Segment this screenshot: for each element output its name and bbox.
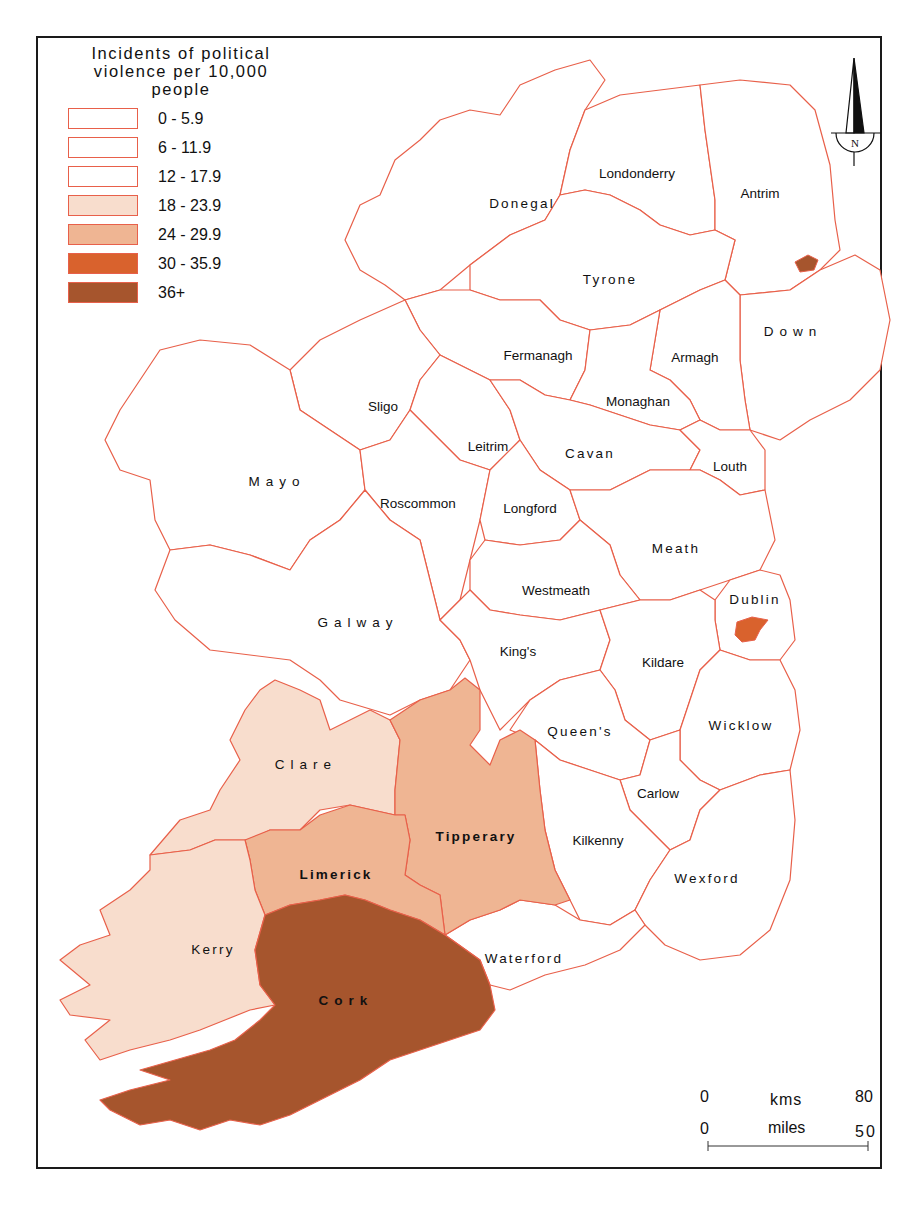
- label-longford: Longford: [503, 501, 556, 516]
- legend-label: 0 - 5.9: [158, 110, 203, 128]
- label-armagh: Armagh: [671, 350, 718, 365]
- label-dublin: Dublin: [729, 592, 780, 607]
- label-louth: Louth: [713, 459, 747, 474]
- county-kerry[interactable]: [60, 840, 275, 1060]
- legend-title: Incidents of political violence per 10,0…: [56, 44, 306, 98]
- label-clare: Clare: [275, 757, 337, 772]
- scale-kms-label: kms: [770, 1091, 802, 1109]
- legend-label: 30 - 35.9: [158, 255, 221, 273]
- label-wexford: Wexford: [674, 871, 739, 886]
- label-tipperary: Tipperary: [435, 829, 516, 844]
- legend-label: 24 - 29.9: [158, 226, 221, 244]
- legend-title-line-2: violence per 10,000: [56, 62, 306, 80]
- label-roscommon: Roscommon: [380, 496, 456, 511]
- label-carlow: Carlow: [637, 786, 679, 801]
- legend-item-12-17.9: 12 - 17.9: [68, 162, 306, 191]
- scale-miles-label: miles: [768, 1119, 805, 1137]
- label-kings: King's: [500, 644, 536, 659]
- label-limerick: Limerick: [299, 867, 372, 882]
- label-leitrim: Leitrim: [468, 439, 509, 454]
- legend-swatch: [68, 282, 138, 303]
- legend-label: 12 - 17.9: [158, 168, 221, 186]
- legend-swatch: [68, 224, 138, 245]
- north-arrow: [831, 58, 881, 166]
- label-sligo: Sligo: [368, 399, 398, 414]
- label-waterford: Waterford: [485, 951, 564, 966]
- label-monaghan: Monaghan: [606, 394, 670, 409]
- label-tyrone: Tyrone: [583, 272, 637, 287]
- legend-swatch: [68, 108, 138, 129]
- label-kerry: Kerry: [191, 942, 234, 957]
- legend-swatch: [68, 195, 138, 216]
- legend-item-24-29.9: 24 - 29.9: [68, 220, 306, 249]
- label-kilkenny: Kilkenny: [572, 833, 623, 848]
- label-wicklow: Wicklow: [709, 718, 774, 733]
- label-down: Down: [764, 324, 823, 339]
- label-cavan: Cavan: [565, 446, 615, 461]
- legend-label: 6 - 11.9: [158, 139, 211, 157]
- north-arrow-label: N: [851, 137, 859, 149]
- scale-miles-start: 0: [700, 1120, 709, 1138]
- legend-item-0-5.9: 0 - 5.9: [68, 104, 306, 133]
- label-westmeath: Westmeath: [522, 583, 590, 598]
- scale-kms-end: 80: [855, 1088, 873, 1106]
- scale-bar: 0 kms 80 0 miles 50: [700, 1083, 880, 1153]
- legend-label: 36+: [158, 284, 185, 302]
- legend-swatch: [68, 253, 138, 274]
- label-londonderry: Londonderry: [599, 166, 675, 181]
- label-galway: Galway: [317, 615, 398, 630]
- legend-swatch: [68, 137, 138, 158]
- legend-item-18-23.9: 18 - 23.9: [68, 191, 306, 220]
- label-queens: Queen's: [547, 724, 612, 739]
- legend-item-30-35.9: 30 - 35.9: [68, 249, 306, 278]
- legend-title-line-1: Incidents of political: [56, 44, 306, 62]
- county-dublin[interactable]: [715, 570, 795, 660]
- label-kildare: Kildare: [642, 655, 684, 670]
- scale-miles-end: 50: [855, 1123, 877, 1141]
- legend-label: 18 - 23.9: [158, 197, 221, 215]
- label-donegal: Donegal: [489, 196, 555, 211]
- label-cork: Cork: [319, 993, 374, 1008]
- scale-kms-start: 0: [700, 1088, 709, 1106]
- map-legend: Incidents of political violence per 10,0…: [56, 44, 306, 307]
- label-mayo: Mayo: [248, 474, 305, 489]
- label-fermanagh: Fermanagh: [503, 348, 572, 363]
- label-meath: Meath: [652, 541, 701, 556]
- label-antrim: Antrim: [740, 186, 779, 201]
- legend-swatch: [68, 166, 138, 187]
- legend-item-36-plus: 36+: [68, 278, 306, 307]
- legend-item-6-11.9: 6 - 11.9: [68, 133, 306, 162]
- legend-title-line-3: people: [56, 80, 306, 98]
